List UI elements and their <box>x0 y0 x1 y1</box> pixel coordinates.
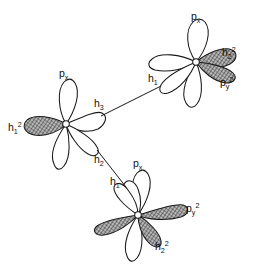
orbital-figure: px h22 py2 h1 px <box>0 0 267 273</box>
nucleus <box>63 121 70 128</box>
label-h2: h2 <box>94 153 104 168</box>
label-h1-squared: h12 <box>8 120 22 135</box>
label-h1: h1 <box>148 72 158 87</box>
bottom-atom: px h1 py2 h22 <box>94 157 199 261</box>
label-py-squared: py2 <box>186 201 199 216</box>
orbital-diagram-canvas: px h22 py2 h1 px <box>0 0 267 273</box>
lobe-py-squared <box>138 205 188 220</box>
left-atom: px h3 h12 h2 <box>8 67 105 169</box>
label-h3: h3 <box>94 97 104 112</box>
lobe-px-up <box>59 79 77 124</box>
bond-left-to-topright <box>101 86 161 116</box>
label-px: px <box>59 67 69 82</box>
nucleus <box>135 212 142 219</box>
nucleus <box>193 59 200 66</box>
top-right-atom: px h22 py2 h1 <box>148 10 236 107</box>
label-h2-squared: h22 <box>155 239 169 254</box>
lobe-h1-squared <box>24 117 66 136</box>
label-px: px <box>133 157 143 172</box>
